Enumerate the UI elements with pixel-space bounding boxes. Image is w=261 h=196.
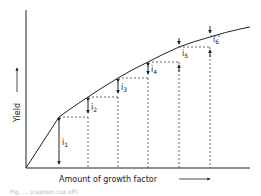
svg-text:i4: i4 <box>151 65 157 75</box>
horizontal-dashed-lines <box>59 36 222 117</box>
svg-text:i6: i6 <box>213 35 219 45</box>
svg-text:i1: i1 <box>62 138 68 148</box>
vertical-dashed-lines <box>88 47 210 168</box>
svg-text:i3: i3 <box>121 83 127 93</box>
caption: Fig. ... (caption cut off) <box>10 188 78 196</box>
increment-labels: i1 i2 i3 i4 i5 i6 <box>62 35 219 148</box>
yield-diagram: i1 i2 i3 i4 i5 i6 Yield Amount of growth… <box>0 0 261 196</box>
y-axis-label: Yield <box>13 103 22 123</box>
yield-curve <box>26 27 250 168</box>
y-axis-label-group: Yield <box>13 103 22 123</box>
svg-text:i5: i5 <box>182 49 188 59</box>
x-axis-label: Amount of growth factor <box>59 175 158 184</box>
svg-text:i2: i2 <box>91 103 97 113</box>
